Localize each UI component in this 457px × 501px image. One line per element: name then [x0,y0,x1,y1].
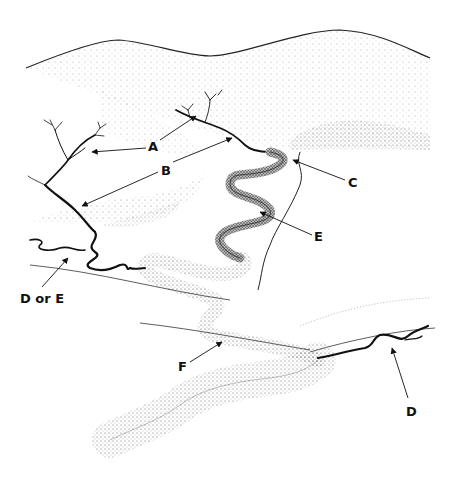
meandering-river [110,258,318,440]
arrow-E [260,212,312,235]
label-A: A [148,140,158,153]
label-B: B [161,164,171,177]
arrow-F [190,342,222,362]
meandering-channel-upper [220,152,284,258]
label-E: E [314,230,323,243]
left-meander-channel [30,232,145,270]
river-diagram: A B C E D or E F D [0,0,457,501]
label-D-or-E: D or E [20,292,64,305]
label-C: C [348,176,358,189]
arrow-D [392,348,408,398]
mountain-ridge [26,30,430,156]
arrow-A-left [92,148,146,152]
label-D: D [406,405,417,418]
landscape-illustration [0,0,457,501]
label-F: F [178,360,187,373]
arrow-D-or-E [42,258,68,287]
